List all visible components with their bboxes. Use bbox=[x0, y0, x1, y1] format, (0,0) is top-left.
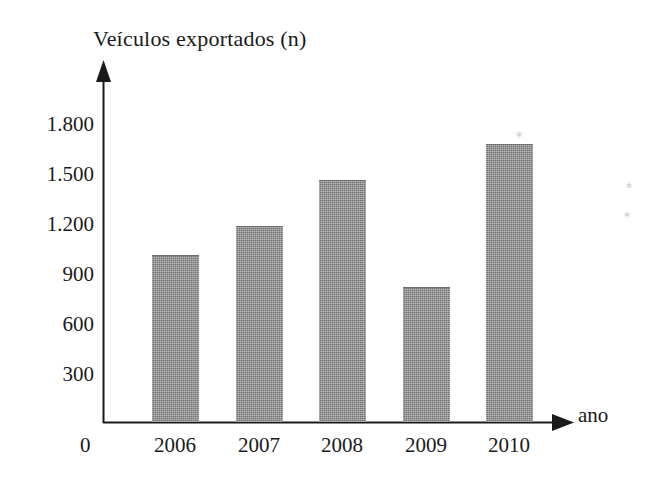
bar-2008 bbox=[319, 180, 366, 422]
bar-2007 bbox=[236, 226, 283, 422]
bar-2010 bbox=[486, 144, 533, 422]
x-tick-2006: 2006 bbox=[154, 435, 196, 456]
x-tick-2010: 2010 bbox=[488, 435, 530, 456]
x-tick-2008: 2008 bbox=[321, 435, 363, 456]
y-axis-arrow-icon bbox=[96, 60, 111, 82]
x-tick-2007: 2007 bbox=[238, 435, 280, 456]
scan-speckle-icon: ✶ bbox=[624, 180, 634, 192]
plot-area: 1.800 1.500 1.200 900 600 300 0 2006 200… bbox=[0, 0, 661, 477]
x-axis-arrow-icon bbox=[552, 414, 574, 431]
scan-speckle-icon: ✶ bbox=[622, 209, 632, 221]
scan-speckle-icon: ✶ bbox=[514, 129, 524, 141]
bar-2009 bbox=[403, 287, 450, 422]
x-tick-2009: 2009 bbox=[405, 435, 447, 456]
x-axis-label: ano bbox=[578, 405, 608, 426]
bar-2006 bbox=[152, 255, 199, 422]
bar-chart-figure: Veículos exportados (n) 1.800 1.500 1.20… bbox=[0, 0, 661, 477]
x-origin-label: 0 bbox=[80, 435, 91, 456]
